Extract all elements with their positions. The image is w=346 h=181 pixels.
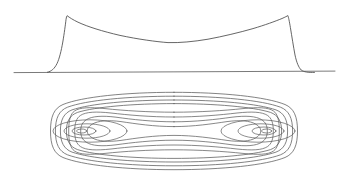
streamline-saddle-1 [69, 108, 280, 155]
right-vortex-core [262, 129, 272, 133]
figure-canvas [0, 0, 346, 181]
baseline-axis [14, 71, 335, 73]
right-vortex-loop-3 [252, 127, 276, 135]
figure-root [0, 0, 346, 181]
streamline-saddle-2 [75, 112, 274, 150]
streamline-saddle-4 [87, 121, 261, 142]
streamline-outer-4 [66, 104, 281, 159]
profile-curve [48, 16, 315, 73]
left-vortex-loop-3 [72, 127, 96, 135]
lower-streamline-panel [51, 92, 298, 169]
left-vortex-core [77, 129, 87, 133]
upper-profile-panel [14, 16, 335, 73]
streamline-outer-3 [60, 100, 287, 162]
streamline-outer-2 [55, 96, 292, 166]
